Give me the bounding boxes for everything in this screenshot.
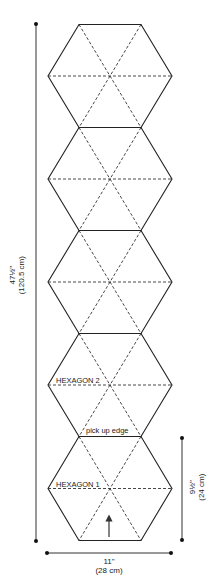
hexagon-2 (48, 334, 172, 437)
hexagon-3 (48, 231, 172, 334)
hexagon-height-metric: (24 cm) (197, 462, 206, 512)
total-length-label: 47½" (120.5 cm) (8, 245, 26, 305)
hexagon-5-top (48, 25, 172, 128)
total-length-metric: (120.5 cm) (17, 245, 26, 305)
width-metric: (28 cm) (79, 566, 139, 575)
width-label: 11" (28 cm) (79, 557, 139, 575)
hexagon-1-label: HEXAGON 1 (56, 481, 100, 489)
hexagon-height-label: 9½" (24 cm) (188, 462, 206, 512)
pick-up-edge-label: pick up edge (86, 427, 129, 435)
hexagon-4 (48, 128, 172, 231)
hexagon-2-label: HEXAGON 2 (56, 377, 100, 385)
hexagon-height-imperial: 9½" (188, 462, 197, 512)
width-imperial: 11" (79, 557, 139, 566)
total-length-imperial: 47½" (8, 245, 17, 305)
